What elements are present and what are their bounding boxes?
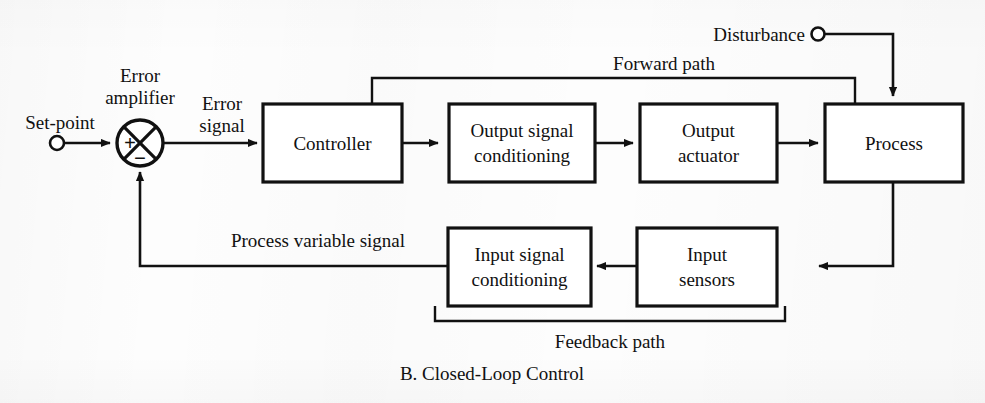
feedback-path-label: Feedback path — [555, 331, 666, 352]
block-input-sensors-label-line2: sensors — [679, 269, 735, 290]
block-input-signal-conditioning-label-line2: conditioning — [471, 269, 568, 290]
set-point-label: Set-point — [25, 112, 95, 133]
block-controller[interactable]: Controller — [263, 104, 402, 182]
error-amplifier-summing-junction[interactable]: + − — [117, 120, 163, 170]
forward-path-label: Forward path — [613, 53, 715, 74]
figure-caption: B. Closed-Loop Control — [400, 363, 584, 384]
block-output-signal-conditioning-label-line1: Output signal — [471, 120, 574, 141]
block-output-signal-conditioning[interactable]: Output signal conditioning — [449, 104, 595, 182]
block-output-actuator[interactable]: Output actuator — [640, 104, 777, 182]
block-output-actuator-label-line2: actuator — [678, 145, 740, 166]
error-signal-label-line1: Error — [202, 93, 243, 114]
disturbance-wire — [825, 34, 894, 96]
figure-canvas: Forward path Disturbance Set-point Error… — [0, 0, 985, 403]
block-input-sensors-label-line1: Input — [687, 244, 728, 265]
forward-path-bracket — [372, 78, 855, 104]
error-signal-label-line2: signal — [199, 115, 244, 136]
block-input-signal-conditioning-label-line1: Input signal — [474, 244, 564, 265]
disturbance-label: Disturbance — [713, 24, 805, 45]
block-process-label: Process — [865, 133, 923, 154]
block-controller-label: Controller — [293, 133, 372, 154]
block-input-sensors[interactable]: Input sensors — [637, 228, 777, 306]
summing-minus-sign: − — [134, 146, 146, 170]
process-to-input-sensors-wire — [819, 182, 893, 266]
set-point-terminal-node[interactable] — [50, 136, 64, 150]
closed-loop-control-diagram: Forward path Disturbance Set-point Error… — [0, 0, 985, 403]
error-amplifier-label-line2: amplifier — [105, 87, 175, 108]
block-output-signal-conditioning-label-line2: conditioning — [474, 145, 571, 166]
error-amplifier-label-line1: Error — [120, 65, 161, 86]
disturbance-terminal-node[interactable] — [812, 28, 825, 41]
block-process[interactable]: Process — [825, 104, 963, 182]
feedback-path-bracket — [435, 306, 785, 321]
block-output-actuator-label-line1: Output — [682, 120, 736, 141]
process-variable-signal-label: Process variable signal — [231, 230, 405, 251]
process-variable-feedback-wire — [140, 172, 448, 266]
block-input-signal-conditioning[interactable]: Input signal conditioning — [448, 228, 591, 306]
